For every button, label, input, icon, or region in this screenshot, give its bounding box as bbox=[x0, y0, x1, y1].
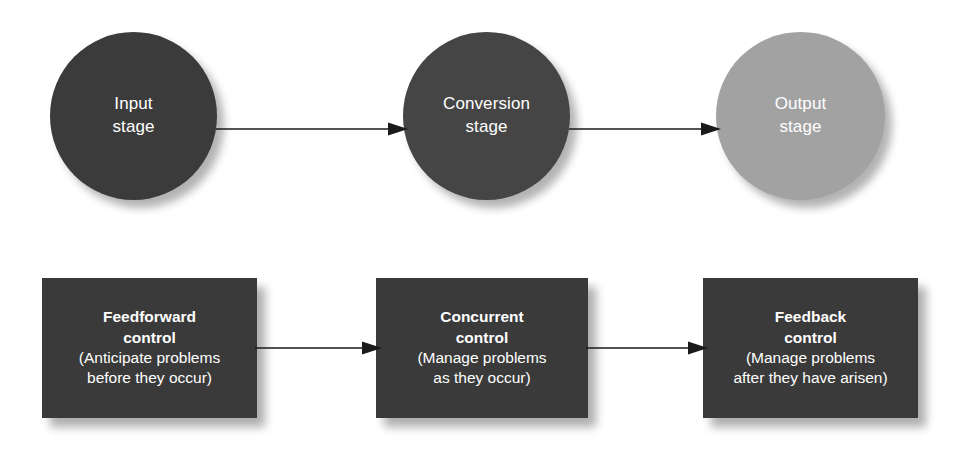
arrow-right-icon-input-to-conversion bbox=[216, 122, 408, 136]
feedforward-sub-line1: (Anticipate problems bbox=[79, 348, 220, 368]
concurrent-head-line2: control bbox=[456, 328, 509, 348]
feedforward-head-line1: Feedforward bbox=[103, 307, 196, 327]
feedback-head-line2: control bbox=[784, 328, 837, 348]
arrow-right-icon-feedforward-to-concurrent bbox=[255, 341, 382, 355]
control-box-feedforward[interactable]: Feedforward control (Anticipate problems… bbox=[42, 278, 257, 418]
stage-conversion-text: Conversion stage bbox=[443, 93, 530, 140]
stage-input-line2: stage bbox=[112, 116, 154, 139]
control-box-concurrent[interactable]: Concurrent control (Manage problems as t… bbox=[376, 278, 588, 418]
arrow-right-icon-conversion-to-output bbox=[569, 122, 721, 136]
concurrent-sub-line2: as they occur) bbox=[433, 368, 530, 388]
stage-conversion-line2: stage bbox=[443, 116, 530, 139]
stage-output-text: Output stage bbox=[775, 93, 827, 140]
feedforward-sub-line2: before they occur) bbox=[87, 368, 212, 388]
concurrent-head-line1: Concurrent bbox=[440, 307, 524, 327]
concurrent-sub-line1: (Manage problems bbox=[417, 348, 546, 368]
feedback-sub-line1: (Manage problems bbox=[746, 348, 875, 368]
feedback-sub-line2: after they have arisen) bbox=[733, 368, 887, 388]
stage-input-text: Input stage bbox=[112, 93, 154, 140]
feedback-head-line1: Feedback bbox=[775, 307, 847, 327]
arrow-right-icon-concurrent-to-feedback bbox=[586, 341, 708, 355]
stage-circle-input[interactable]: Input stage bbox=[50, 32, 217, 200]
stage-conversion-line1: Conversion bbox=[443, 93, 530, 116]
stage-circle-output[interactable]: Output stage bbox=[716, 32, 885, 200]
stage-circle-conversion[interactable]: Conversion stage bbox=[403, 32, 570, 200]
stage-input-line1: Input bbox=[112, 93, 154, 116]
control-process-diagram: Input stage Conversion stage Output stag… bbox=[0, 0, 967, 455]
feedforward-head-line2: control bbox=[123, 328, 176, 348]
stage-output-line2: stage bbox=[775, 116, 827, 139]
control-box-feedback[interactable]: Feedback control (Manage problems after … bbox=[703, 278, 918, 418]
stage-output-line1: Output bbox=[775, 93, 827, 116]
